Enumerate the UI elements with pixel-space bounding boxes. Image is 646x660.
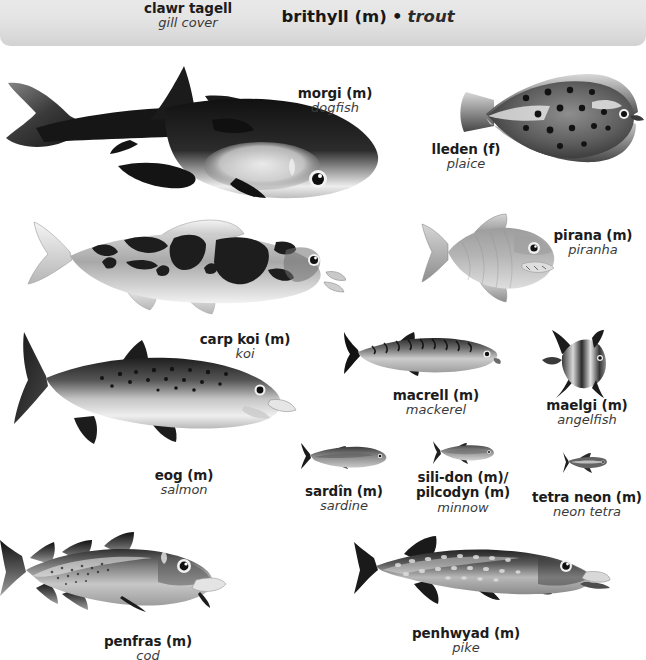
label-cod: penfras (m) cod bbox=[84, 634, 212, 660]
figure-pike bbox=[352, 532, 612, 622]
figure-dogfish bbox=[0, 58, 392, 203]
figure-minnow bbox=[432, 440, 494, 466]
label-salmon-english: salmon bbox=[124, 483, 244, 498]
label-minnow-welsh-1: sili-don (m)/ bbox=[400, 470, 526, 485]
label-neon-tetra-english: neon tetra bbox=[528, 505, 646, 520]
label-angelfish-welsh: maelgi (m) bbox=[528, 398, 646, 413]
label-piranha: pirana (m) piranha bbox=[540, 228, 646, 258]
label-salmon: eog (m) salmon bbox=[124, 468, 244, 498]
figure-cod bbox=[0, 526, 268, 636]
figure-salmon bbox=[8, 322, 298, 450]
label-angelfish: maelgi (m) angelfish bbox=[528, 398, 646, 428]
figure-piranha bbox=[418, 208, 558, 308]
label-dogfish: morgi (m) dogfish bbox=[255, 86, 415, 116]
label-angelfish-english: angelfish bbox=[528, 413, 646, 428]
label-salmon-welsh: eog (m) bbox=[124, 468, 244, 483]
label-pike: penhwyad (m) pike bbox=[393, 626, 539, 656]
label-dogfish-english: dogfish bbox=[255, 101, 415, 116]
figure-neon-tetra bbox=[562, 452, 608, 474]
label-pike-english: pike bbox=[393, 641, 539, 656]
label-mackerel-english: mackerel bbox=[377, 403, 495, 418]
header-entry-trout: brithyll (m) • trout bbox=[218, 8, 518, 26]
label-minnow: sili-don (m)/ pilcodyn (m) minnow bbox=[400, 470, 526, 516]
header-gloss-english-trout: trout bbox=[408, 7, 455, 26]
label-mackerel-welsh: macrell (m) bbox=[377, 388, 495, 403]
label-sardine-welsh: sardîn (m) bbox=[286, 484, 402, 499]
label-cod-english: cod bbox=[84, 649, 212, 660]
label-neon-tetra-welsh: tetra neon (m) bbox=[528, 490, 646, 505]
label-plaice-welsh: lleden (f) bbox=[408, 142, 524, 157]
label-cod-welsh: penfras (m) bbox=[84, 634, 212, 649]
label-minnow-welsh-2: pilcodyn (m) bbox=[400, 485, 526, 500]
label-plaice-english: plaice bbox=[408, 157, 524, 172]
label-sardine: sardîn (m) sardine bbox=[286, 484, 402, 514]
label-sardine-english: sardine bbox=[286, 499, 402, 514]
figure-sardine bbox=[300, 442, 388, 472]
label-plaice: lleden (f) plaice bbox=[408, 142, 524, 172]
figure-koi bbox=[6, 208, 346, 318]
figure-angelfish bbox=[540, 330, 608, 398]
label-mackerel: macrell (m) mackerel bbox=[377, 388, 495, 418]
label-piranha-welsh: pirana (m) bbox=[540, 228, 646, 243]
header-term-welsh-trout: brithyll (m) bbox=[281, 7, 386, 26]
header-separator-dot: • bbox=[392, 7, 403, 26]
label-dogfish-welsh: morgi (m) bbox=[255, 86, 415, 101]
label-minnow-english: minnow bbox=[400, 501, 526, 516]
label-piranha-english: piranha bbox=[540, 243, 646, 258]
label-pike-welsh: penhwyad (m) bbox=[393, 626, 539, 641]
figure-mackerel bbox=[342, 330, 502, 380]
label-neon-tetra: tetra neon (m) neon tetra bbox=[528, 490, 646, 520]
